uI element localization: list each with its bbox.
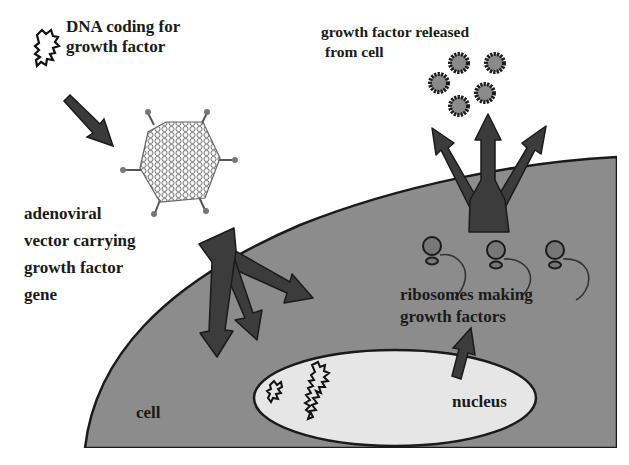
growth-factor-particle [450,97,468,115]
growth-factor-particle [476,84,494,102]
label-ribosomes: ribosomes making growth factors [400,284,533,328]
arrow-dna-to-vector [64,95,113,146]
label-cell: cell [136,403,161,423]
growth-factor-particle [430,74,448,92]
label-nucleus: nucleus [452,392,507,412]
label-adenoviral-vector: adenoviral vector carrying growth factor… [24,200,136,308]
growth-factor-particles [430,54,504,115]
dna-icon [35,30,59,66]
label-growth-factor-released: growth factor released from cell [321,22,469,62]
label-dna: DNA coding for growth factor [66,17,180,57]
growth-factor-particle [486,54,504,72]
adenovirus-icon [120,109,238,217]
